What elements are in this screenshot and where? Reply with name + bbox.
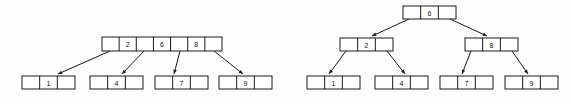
cell-key-label: 9 xyxy=(244,80,248,87)
pointer-arrow xyxy=(58,51,110,74)
cell-key-label: 6 xyxy=(428,10,432,17)
pointer-arrow xyxy=(450,19,487,36)
pointer-arrow xyxy=(329,51,346,74)
leaf-node: 9 xyxy=(505,76,558,89)
leaf-node: 1 xyxy=(22,76,75,89)
cell-key-label: 8 xyxy=(194,41,198,48)
cell-key-label: 7 xyxy=(180,80,184,87)
cell-key-label: 1 xyxy=(47,80,51,87)
nodes-layer: 26814796281479 xyxy=(22,6,558,89)
cell-key-label: 9 xyxy=(530,80,534,87)
leaf-node: 9 xyxy=(219,76,272,89)
internal-node: 8 xyxy=(465,38,518,51)
cell-key-label: 1 xyxy=(332,80,336,87)
root-node: 6 xyxy=(403,6,456,19)
root-node: 268 xyxy=(102,37,222,51)
btree-svg-canvas: 26814796281479 xyxy=(0,0,571,104)
internal-node: 2 xyxy=(340,38,393,51)
cell-key-label: 4 xyxy=(115,80,119,87)
cell-key-label: 7 xyxy=(465,80,469,87)
leaf-node: 7 xyxy=(440,76,493,89)
pointer-arrow xyxy=(214,51,243,74)
leaf-node: 4 xyxy=(90,76,143,89)
two-level-btree-edges xyxy=(58,51,243,74)
leaf-node: 1 xyxy=(307,76,360,89)
leaf-node: 7 xyxy=(155,76,208,89)
leaf-node: 4 xyxy=(375,76,428,89)
cell-key-label: 2 xyxy=(365,42,369,49)
cell-key-label: 8 xyxy=(490,42,494,49)
three-level-btree-nodes: 6281479 xyxy=(307,6,558,89)
pointer-arrow xyxy=(372,19,409,36)
btree-figure: 26814796281479 xyxy=(0,0,571,104)
arrow-head-icon xyxy=(462,69,465,74)
pointer-arrow xyxy=(122,51,144,74)
cell-key-label: 4 xyxy=(400,80,404,87)
cell-key-label: 6 xyxy=(160,41,164,48)
two-level-btree-nodes: 2681479 xyxy=(22,37,272,89)
pointer-arrow xyxy=(387,51,405,74)
arrow-head-icon xyxy=(524,69,528,74)
cell-key-label: 2 xyxy=(126,41,130,48)
